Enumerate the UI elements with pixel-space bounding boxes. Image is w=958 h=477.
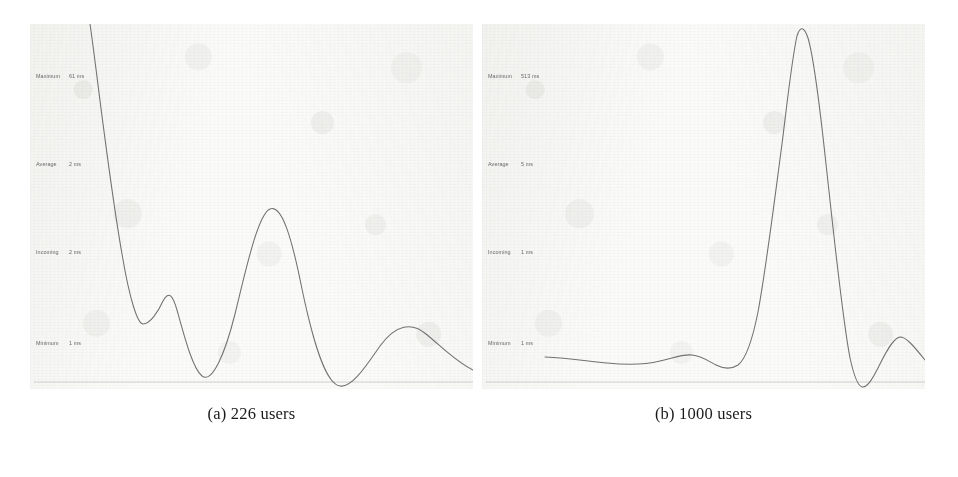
stat-value-minimum: 1 ms xyxy=(521,341,533,346)
subfigure-caption-b: (b) 1000 users xyxy=(482,404,925,424)
stat-row-incoming: Incoming 1 ms xyxy=(488,250,533,255)
chart-panel-a: Maximum 61 ms Average 2 ms Incoming 2 ms… xyxy=(30,24,473,389)
stat-value-incoming: 1 ms xyxy=(521,250,533,255)
stat-row-average: Average 2 ms xyxy=(36,162,81,167)
stat-row-maximum: Maximum 61 ms xyxy=(36,74,84,79)
chart-b-response-time-line xyxy=(545,29,925,387)
stat-value-maximum: 61 ms xyxy=(69,74,84,79)
stat-value-minimum: 1 ms xyxy=(69,341,81,346)
subfigure-caption-a: (a) 226 users xyxy=(30,404,473,424)
stat-label-minimum: Minimum xyxy=(488,341,521,346)
stat-row-incoming: Incoming 2 ms xyxy=(36,250,81,255)
chart-a-response-time-line xyxy=(90,24,473,386)
stat-value-average: 2 ms xyxy=(69,162,81,167)
stat-row-minimum: Minimum 1 ms xyxy=(488,341,533,346)
chart-a-plot xyxy=(30,24,473,389)
figure-latency-graphs: Maximum 61 ms Average 2 ms Incoming 2 ms… xyxy=(0,0,958,477)
stat-label-average: Average xyxy=(488,162,521,167)
stat-value-average: 5 ms xyxy=(521,162,533,167)
chart-panel-b: Maximum 513 ms Average 5 ms Incoming 1 m… xyxy=(482,24,925,389)
stat-label-minimum: Minimum xyxy=(36,341,69,346)
stat-label-maximum: Maximum xyxy=(36,74,69,79)
stat-row-minimum: Minimum 1 ms xyxy=(36,341,81,346)
stat-label-average: Average xyxy=(36,162,69,167)
stat-value-incoming: 2 ms xyxy=(69,250,81,255)
stat-label-maximum: Maximum xyxy=(488,74,521,79)
stat-label-incoming: Incoming xyxy=(488,250,521,255)
stat-row-average: Average 5 ms xyxy=(488,162,533,167)
chart-b-plot xyxy=(482,24,925,389)
stat-value-maximum: 513 ms xyxy=(521,74,539,79)
stat-row-maximum: Maximum 513 ms xyxy=(488,74,539,79)
stat-label-incoming: Incoming xyxy=(36,250,69,255)
